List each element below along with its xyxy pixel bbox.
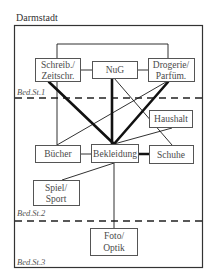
node-foto-line2: Optik bbox=[103, 243, 125, 253]
node-bekleidung-label: Bekleidung bbox=[93, 149, 137, 159]
node-schuhe-label: Schuhe bbox=[157, 150, 185, 160]
node-drogerie-parfuem: Drogerie/ Parfüm. bbox=[149, 59, 195, 82]
node-bekleidung: Bekleidung bbox=[92, 145, 139, 163]
node-nug-label: NuG bbox=[106, 65, 125, 75]
diagram-title: Darmstadt bbox=[16, 12, 58, 23]
edge-haushalt-bekleidung bbox=[114, 128, 172, 144]
node-drogerie-line2: Parfüm. bbox=[156, 71, 186, 81]
node-haushalt: Haushalt bbox=[150, 111, 193, 128]
edge-schreib-drogerie bbox=[57, 44, 168, 58]
node-schuhe: Schuhe bbox=[150, 146, 194, 164]
node-foto-optik: Foto/ Optik bbox=[91, 229, 138, 256]
level-label-3: Bed.St.3 bbox=[17, 257, 45, 267]
node-schreib-zeitschr: Schreib./ Zeitschr. bbox=[36, 59, 81, 82]
node-nug: NuG bbox=[93, 62, 138, 79]
node-schreib-line1: Schreib./ bbox=[41, 60, 75, 70]
node-spiel-sport: Spiel/ Sport bbox=[34, 181, 80, 206]
level-label-1: Bed.St.1 bbox=[17, 87, 45, 97]
node-buecher-label: Bücher bbox=[44, 149, 72, 159]
store-network-diagram: Darmstadt Bed.St.1 Bed.St.2 Bed.St.3 bbox=[0, 0, 217, 278]
node-buecher: Bücher bbox=[36, 146, 81, 163]
node-spiel-line2: Sport bbox=[46, 194, 67, 204]
edge-bekleidung-spiel bbox=[62, 163, 114, 180]
node-foto-line1: Foto/ bbox=[104, 231, 124, 241]
edge-schreib-bekleidung bbox=[49, 82, 114, 144]
node-schreib-line2: Zeitschr. bbox=[42, 71, 75, 81]
node-drogerie-line1: Drogerie/ bbox=[153, 60, 190, 70]
node-haushalt-label: Haushalt bbox=[154, 114, 188, 124]
level-label-2: Bed.St.2 bbox=[17, 208, 46, 218]
node-spiel-line1: Spiel/ bbox=[45, 183, 68, 193]
